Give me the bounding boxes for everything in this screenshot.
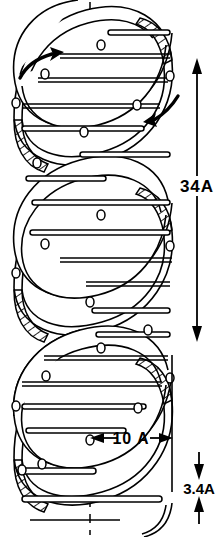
pitch-label: 34A [180, 177, 214, 196]
rise-arrowhead-up [194, 496, 204, 512]
diameter-label: 10 A [112, 430, 149, 447]
pitch-dimension-34a: 34A [180, 58, 214, 342]
dna-helix-figure: 34A 10 A 3.4A [0, 0, 224, 537]
pitch-arrowhead-bottom [192, 326, 202, 342]
pitch-arrowhead-top [192, 58, 202, 74]
rise-label: 3.4A [183, 480, 215, 497]
rise-dimension-34a: 3.4A [183, 452, 215, 524]
rise-arrowhead-down [194, 464, 204, 480]
dna-helix-illustration: 34A 10 A 3.4A [0, 0, 224, 537]
